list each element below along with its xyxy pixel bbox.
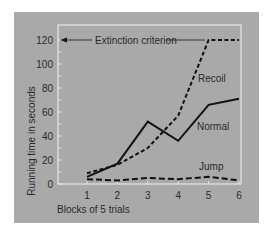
x-tick-label: 2 bbox=[115, 190, 121, 201]
y-axis-label: Running time in seconds bbox=[26, 86, 37, 196]
series-line-jump bbox=[87, 177, 239, 181]
series-line-recoil bbox=[87, 40, 239, 173]
x-tick-label: 5 bbox=[206, 190, 212, 201]
data-series: NormalRecoilJump bbox=[87, 40, 239, 180]
x-axis-label: Blocks of 5 trials bbox=[57, 204, 130, 215]
y-tick-label: 40 bbox=[42, 131, 54, 142]
y-tick-label: 100 bbox=[36, 59, 53, 70]
series-label-recoil: Recoil bbox=[198, 73, 226, 84]
series-label-jump: Jump bbox=[199, 161, 224, 172]
arrow-left-icon bbox=[60, 38, 67, 43]
line-chart: 020406080100120 123456 Extinction criter… bbox=[0, 0, 271, 238]
y-tick-label: 60 bbox=[42, 107, 54, 118]
y-tick-label: 20 bbox=[42, 155, 54, 166]
y-tick-label: 120 bbox=[36, 35, 53, 46]
x-tick-label: 4 bbox=[175, 190, 181, 201]
x-tick-label: 3 bbox=[145, 190, 151, 201]
y-tick-label: 0 bbox=[47, 179, 53, 190]
series-label-normal: Normal bbox=[197, 121, 229, 132]
annotation-label: Extinction criterion bbox=[95, 35, 177, 46]
y-tick-label: 80 bbox=[42, 83, 54, 94]
x-tick-label: 6 bbox=[236, 190, 242, 201]
extinction-criterion-annotation: Extinction criterion bbox=[60, 35, 205, 46]
x-tick-label: 1 bbox=[84, 190, 90, 201]
